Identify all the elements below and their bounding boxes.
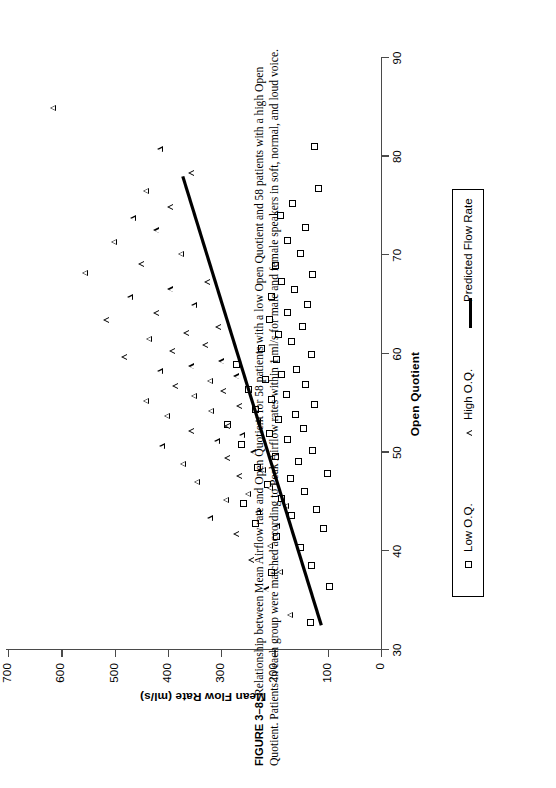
data-point (153, 227, 159, 233)
x-tick (381, 451, 389, 452)
figure-stage: 0100200300400500600700 30405060708090 Me… (0, 58, 424, 730)
data-point (167, 287, 173, 293)
data-point (130, 215, 136, 221)
data-point (233, 373, 239, 379)
legend-item: Low O.Q. (462, 503, 474, 578)
data-point (188, 428, 194, 434)
data-point (224, 455, 230, 461)
data-point (172, 383, 178, 389)
data-point (311, 143, 318, 150)
x-tick (381, 649, 389, 650)
data-point (315, 185, 322, 192)
data-point (103, 317, 109, 323)
y-tick (328, 649, 329, 657)
y-tick (8, 649, 9, 657)
figure-caption-text: Relationship between Mean Airflow rate a… (253, 49, 281, 766)
data-point (169, 348, 175, 354)
data-point (188, 363, 194, 369)
x-tick (381, 353, 389, 354)
x-tick-label: 40 (391, 536, 403, 566)
data-point (167, 204, 173, 210)
x-tick-label: 60 (391, 339, 403, 369)
data-point (236, 403, 242, 409)
x-tick-label: 30 (391, 635, 403, 665)
data-point (157, 368, 163, 374)
x-tick-label: 90 (391, 43, 403, 73)
y-tick-label: 600 (54, 663, 66, 697)
data-point (180, 461, 186, 467)
data-point (159, 443, 165, 449)
data-point (304, 301, 311, 308)
data-point (308, 352, 315, 359)
data-point (127, 294, 133, 300)
chart-legend: Low O.Q.High O.Q.Predicted Flow Rate (452, 189, 484, 597)
data-point (111, 239, 117, 245)
data-point (236, 473, 242, 479)
data-point (153, 310, 159, 316)
data-point (138, 261, 144, 267)
data-point (326, 583, 333, 590)
data-point (245, 491, 251, 497)
figure-caption: FIGURE 3–8. Relationship between Mean Ai… (252, 22, 304, 766)
data-point (143, 398, 149, 404)
legend-items: Low O.Q.High O.Q.Predicted Flow Rate (453, 190, 483, 596)
legend-item: High O.Q. (462, 369, 474, 446)
data-point (215, 324, 221, 330)
data-point (224, 423, 230, 429)
y-tick-label: 0 (374, 663, 386, 697)
data-point (214, 438, 220, 444)
legend-label: Low O.Q. (462, 503, 474, 552)
figure-number: FIGURE 3–8. (253, 699, 265, 766)
data-point (82, 270, 88, 276)
data-point (307, 619, 314, 626)
data-point (308, 562, 315, 569)
square-marker-icon (462, 552, 474, 578)
x-axis-title: Open Quotient (408, 58, 422, 730)
legend-label: High O.Q. (462, 369, 474, 420)
data-point (313, 506, 320, 513)
data-point (157, 146, 163, 152)
data-point (202, 342, 208, 348)
x-tick-label: 70 (391, 240, 403, 270)
data-point (191, 302, 197, 308)
data-point (233, 361, 240, 368)
x-axis-line (381, 58, 382, 650)
data-point (208, 408, 214, 414)
data-point (183, 330, 189, 336)
data-point (233, 531, 239, 537)
data-point (164, 413, 170, 419)
legend-label: Predicted Flow Rate (462, 198, 474, 302)
data-point (121, 354, 127, 360)
data-point (320, 525, 327, 532)
data-point (240, 501, 247, 508)
y-tick (381, 649, 382, 657)
x-tick (381, 550, 389, 551)
data-point (50, 105, 56, 111)
y-tick-label: 700 (1, 663, 13, 697)
y-tick (168, 649, 169, 657)
data-point (204, 279, 210, 285)
data-point (324, 470, 331, 477)
x-tick (381, 57, 389, 58)
legend-item: Predicted Flow Rate (462, 198, 474, 328)
data-point (188, 170, 194, 176)
data-point (238, 441, 245, 448)
y-tick-label: 100 (321, 663, 333, 697)
line-marker-icon (462, 302, 474, 328)
data-point (207, 378, 213, 384)
x-tick-label: 50 (391, 438, 403, 468)
data-point (143, 188, 149, 194)
data-point (194, 479, 200, 485)
y-tick (221, 649, 222, 657)
triangle-marker-icon (462, 420, 474, 446)
data-point (223, 497, 229, 503)
data-point (220, 388, 226, 394)
data-point (207, 515, 213, 521)
y-tick (115, 649, 116, 657)
data-point (309, 271, 316, 278)
x-tick (381, 254, 389, 255)
data-point (146, 336, 152, 342)
regression-line (0, 58, 424, 730)
x-tick-label: 80 (391, 142, 403, 172)
data-point (239, 433, 245, 439)
